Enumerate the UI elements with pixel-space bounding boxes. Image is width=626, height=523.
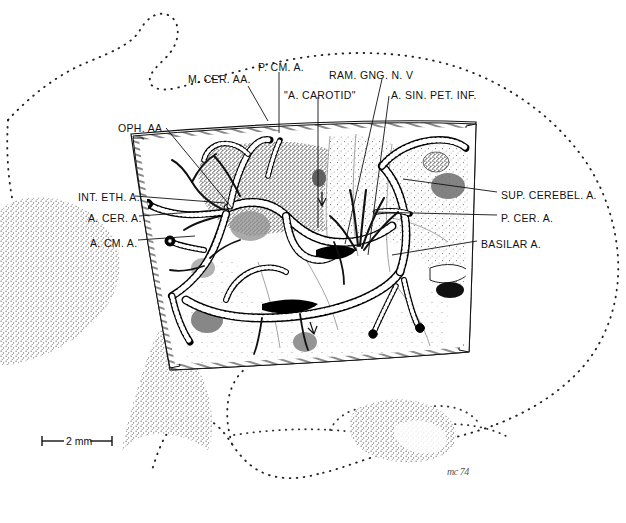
label-m-cer-aa: M. CER. AA. [188, 74, 251, 85]
label-a-cm-a: A. CM. A. [90, 238, 138, 249]
scale-bar-label: 2 mm [66, 435, 92, 447]
label-a-carotid: "A. CAROTID" [284, 90, 356, 101]
label-int-eth-a: INT. ETH. A. [78, 192, 140, 203]
label-sup-cerebel-a: SUP. CEREBEL. A. [501, 190, 597, 201]
leader-m-cer-aa [248, 86, 268, 121]
artist-signature: mc 74 [447, 466, 469, 477]
label-oph-aa: OPH. AA. [118, 123, 166, 134]
label-ram-gng-n-v: RAM. GNG. N. V [329, 70, 413, 81]
label-a-cer-a: A. CER. A. [88, 213, 142, 224]
label-p-cm-a: P. CM. A. [258, 62, 304, 73]
auditory-bulla-stipple [349, 399, 456, 462]
window-interior [130, 120, 480, 370]
label-basilar-a: BASILAR A. [481, 239, 541, 250]
figure-artwork [0, 0, 626, 523]
label-p-cer-a: P. CER. A. [501, 213, 553, 224]
anatomical-figure-plate: M. CER. AA.P. CM. A."A. CAROTID"RAM. GNG… [0, 0, 626, 523]
label-a-sin-pet-inf: A. SIN. PET. INF. [391, 90, 477, 101]
